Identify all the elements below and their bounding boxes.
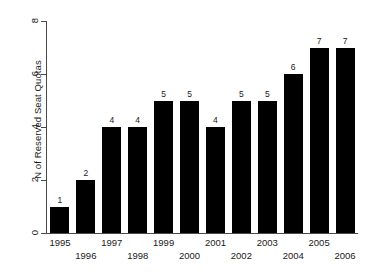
bar-group: 4 <box>206 21 225 233</box>
bar <box>206 127 225 233</box>
bar-group: 4 <box>102 21 121 233</box>
bar <box>284 74 303 233</box>
bar-group: 7 <box>336 21 355 233</box>
y-axis-tick <box>41 127 46 128</box>
bar <box>128 127 147 233</box>
x-axis-tick-label: 2005 <box>297 237 341 248</box>
x-axis-tick-label: 2006 <box>323 250 367 261</box>
x-axis-tick-label: 1997 <box>90 237 134 248</box>
y-axis-tick-label: 4 <box>17 121 37 132</box>
x-axis-line <box>46 233 358 234</box>
y-axis-tick <box>41 180 46 181</box>
x-axis-tick-label: 2003 <box>245 237 289 248</box>
bar-group: 5 <box>232 21 251 233</box>
bar-value-label: 1 <box>44 195 75 205</box>
bar-group: 5 <box>154 21 173 233</box>
bar-value-label: 5 <box>252 89 283 99</box>
x-axis-tick-label: 1995 <box>38 237 82 248</box>
y-axis-tick-label: 6 <box>17 68 37 79</box>
bar <box>180 101 199 234</box>
bar <box>258 101 277 234</box>
bar-value-label: 4 <box>200 115 231 125</box>
bar-value-label: 7 <box>330 36 361 46</box>
bar-value-label: 4 <box>122 115 153 125</box>
x-axis-tick-label: 2001 <box>193 237 237 248</box>
bar <box>336 48 355 234</box>
y-axis-title: N of Reserved Seat Quotas <box>32 20 43 220</box>
y-axis-tick-label: 2 <box>17 174 37 185</box>
bar-chart: N of Reserved Seat Quotas 02468 12445545… <box>0 0 376 278</box>
bar-group: 6 <box>284 21 303 233</box>
x-axis-tick-label: 1999 <box>142 237 186 248</box>
y-axis-tick-label: 0 <box>17 227 37 238</box>
y-axis-tick <box>41 233 46 234</box>
bar-group: 4 <box>128 21 147 233</box>
bar <box>102 127 121 233</box>
bar-value-label: 5 <box>174 89 205 99</box>
bar <box>76 180 95 233</box>
y-axis-tick-label: 8 <box>17 15 37 26</box>
x-axis-tick-label: 2002 <box>219 250 263 261</box>
bar-value-label: 2 <box>70 168 101 178</box>
bar <box>310 48 329 234</box>
x-axis-tick-label: 1998 <box>116 250 160 261</box>
bar-group: 2 <box>76 21 95 233</box>
bar-value-label: 6 <box>278 62 309 72</box>
plot-area: 124455455677 <box>47 21 358 233</box>
bar-group: 1 <box>50 21 69 233</box>
x-axis-tick-label: 1996 <box>64 250 108 261</box>
bar <box>154 101 173 234</box>
bar-group: 5 <box>258 21 277 233</box>
x-axis-tick-label: 2004 <box>271 250 315 261</box>
bar-group: 7 <box>310 21 329 233</box>
y-axis-tick <box>41 21 46 22</box>
bar-group: 5 <box>180 21 199 233</box>
bar <box>232 101 251 234</box>
x-axis-tick-label: 2000 <box>168 250 212 261</box>
y-axis-tick <box>41 74 46 75</box>
bar <box>50 207 69 234</box>
